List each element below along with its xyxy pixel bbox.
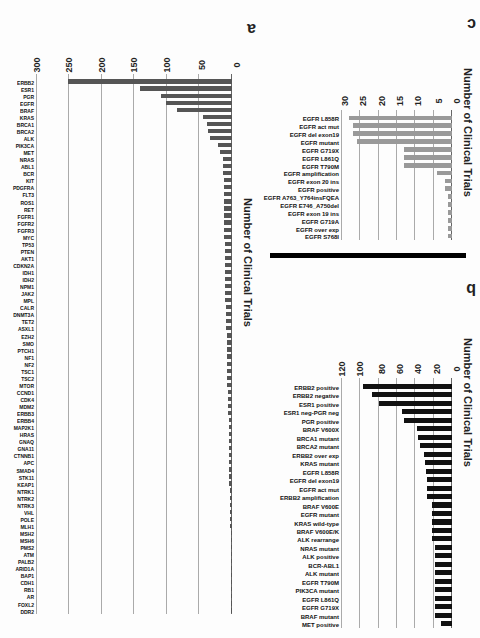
axis-tick-label: 80 <box>377 364 387 374</box>
category-label: EGFR mutant <box>301 512 339 518</box>
category-label: EGFR E746_A750del <box>280 203 339 209</box>
bar <box>445 186 452 191</box>
bar <box>432 528 452 533</box>
category-label: EGFR G719X <box>302 148 339 154</box>
bar <box>225 249 232 253</box>
category-label: POLE <box>20 517 34 523</box>
category-label: ABL1 <box>21 164 34 170</box>
bar <box>231 552 232 556</box>
bar <box>210 136 232 140</box>
bar <box>228 397 232 401</box>
category-label: RET <box>24 207 34 213</box>
bar <box>223 164 232 168</box>
category-label: CCND1 <box>17 390 34 396</box>
bar <box>349 116 452 121</box>
bar <box>427 494 452 499</box>
category-label: BRAF V600X <box>303 427 339 433</box>
bar <box>436 579 453 584</box>
bar <box>224 199 232 203</box>
bar <box>227 369 232 373</box>
bar <box>231 566 232 570</box>
category-label: HRAS <box>20 432 34 438</box>
bar <box>436 545 453 550</box>
axis-tick-label: 15 <box>395 96 405 106</box>
category-label: ROS1 <box>20 200 34 206</box>
bar <box>231 608 232 612</box>
gridline <box>396 378 397 628</box>
bar <box>161 94 232 98</box>
category-label: FGFR1 <box>18 214 34 220</box>
bar <box>425 452 453 457</box>
category-label: FOXL2 <box>18 602 34 608</box>
category-label: KRAS <box>20 115 34 121</box>
bar <box>353 131 452 136</box>
category-label: BCR-ABL1 <box>308 563 339 569</box>
bar <box>448 194 452 199</box>
category-label: KRAS wild-type <box>294 521 339 527</box>
category-label: EGFR exon 20 ins <box>288 179 339 185</box>
category-label: BRCA1 mutant <box>297 436 339 442</box>
gridline <box>166 74 167 614</box>
gridline <box>199 74 200 614</box>
bar <box>436 613 453 618</box>
category-label: KIT <box>26 178 34 184</box>
bar <box>229 425 232 429</box>
category-label: ERBB3 <box>17 411 34 417</box>
axis-tick-label: 25 <box>358 96 368 106</box>
category-label: BRAF V600E/K <box>297 529 339 535</box>
bar <box>437 171 452 176</box>
bar <box>229 439 232 443</box>
category-label: PIK3CA mutant <box>296 588 339 594</box>
bar <box>224 178 232 182</box>
category-label: BRCA2 mutant <box>297 444 339 450</box>
category-label: SMO <box>23 341 34 347</box>
bar <box>436 570 453 575</box>
category-label: EZH2 <box>21 334 34 340</box>
bar <box>223 157 232 161</box>
gridline <box>433 110 434 240</box>
category-label: TP53 <box>22 242 34 248</box>
category-label: PALB2 <box>18 559 34 565</box>
category-label: EGFR amplification <box>284 171 339 177</box>
bar <box>207 122 232 126</box>
panel-c-plot: 051015202530EGFR L858REGFR act mutEGFR d… <box>262 90 452 240</box>
category-label: EGFR exon 19 ins <box>288 211 339 217</box>
bar <box>436 587 453 592</box>
bar <box>357 139 452 144</box>
bar <box>229 432 232 436</box>
gridline <box>414 378 415 628</box>
bar <box>418 435 452 440</box>
bar <box>404 147 452 152</box>
panel-b-ylabel: Number of Clinical Trials <box>462 338 474 467</box>
category-label: EGFR G719A <box>302 219 339 225</box>
bar <box>223 171 232 175</box>
axis-tick-label: 250 <box>65 57 75 72</box>
category-label: ALK mutant <box>305 571 339 577</box>
category-label: ERBB4 <box>17 418 34 424</box>
category-label: STK11 <box>19 475 34 481</box>
bar <box>227 354 232 358</box>
gridline <box>359 378 360 628</box>
bar <box>231 538 232 542</box>
category-label: ATM <box>24 552 34 558</box>
axis-tick-label: 30 <box>340 96 350 106</box>
bar <box>432 502 452 507</box>
bar <box>448 218 452 223</box>
bar <box>224 213 232 217</box>
category-label: EGFR L858R <box>303 116 339 122</box>
category-label: AKT1 <box>21 256 34 262</box>
category-label: PGR <box>23 94 34 100</box>
axis-tick-label: 0 <box>452 98 462 103</box>
bar <box>224 192 232 196</box>
bar <box>226 277 233 281</box>
category-label: MET <box>23 150 34 156</box>
bar <box>230 496 232 500</box>
axis-tick-label: 200 <box>97 57 107 72</box>
bar <box>220 150 232 154</box>
bar <box>226 298 233 302</box>
bar <box>379 401 452 406</box>
category-label: MSH2 <box>20 531 34 537</box>
bar <box>229 453 232 457</box>
bar <box>432 536 452 541</box>
panel-b-letter: b <box>466 280 476 298</box>
